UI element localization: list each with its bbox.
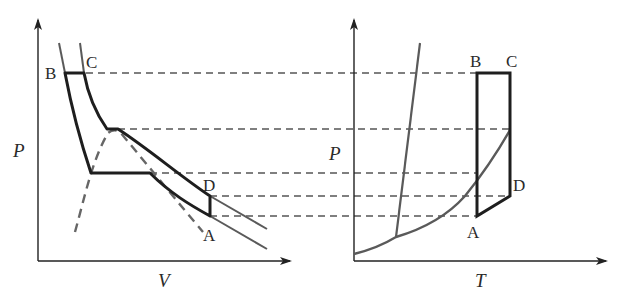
pt-melting-curve (396, 43, 420, 237)
pv-y-axis-label: P (13, 141, 25, 160)
pv-point-c-label: C (86, 54, 97, 71)
pt-cycle-path (477, 73, 510, 216)
guide-lines (86, 73, 510, 216)
thermodynamic-cycle-figure: P V B C D A P T B C D A (0, 0, 622, 306)
pv-x-axis-label: V (158, 271, 170, 290)
pv-point-d-label: D (203, 177, 215, 194)
pt-point-b-label: B (470, 53, 481, 70)
pt-x-axis-label: T (475, 271, 486, 290)
pv-isotherm-d-ext (210, 196, 267, 229)
pt-point-d-label: D (513, 177, 525, 194)
figure-canvas (0, 0, 622, 306)
pt-y-axis-label: P (329, 144, 341, 163)
pv-cycle-path (65, 73, 210, 216)
pt-vapor-pressure-curve (354, 130, 510, 254)
pt-point-a-label: A (467, 224, 479, 241)
pv-diagram (38, 20, 290, 261)
pv-point-b-label: B (45, 65, 56, 82)
pv-isotherm-a-ext (210, 216, 267, 249)
pv-isotherm-c (80, 43, 84, 73)
pt-point-c-label: C (506, 53, 517, 70)
pv-point-a-label: A (203, 227, 215, 244)
pv-isotherm-b (59, 43, 65, 73)
